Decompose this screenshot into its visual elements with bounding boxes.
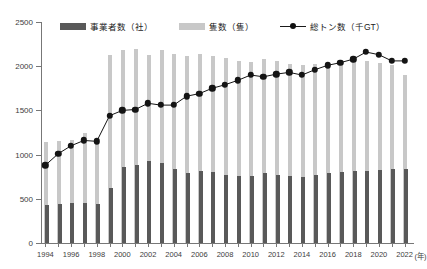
x-axis-tick [353, 243, 354, 247]
x-axis-tick [71, 243, 72, 247]
x-axis-tick [84, 243, 85, 247]
y-axis-tick-label: 500 [0, 194, 33, 203]
bar-operators [109, 188, 113, 243]
x-axis-tick [289, 243, 290, 247]
x-axis-tick [174, 243, 175, 247]
x-axis-tick [340, 243, 341, 247]
x-axis-tick-label: 2004 [165, 250, 182, 259]
x-axis-tick [212, 243, 213, 247]
bar-operators [340, 172, 344, 243]
bar-operators [58, 204, 62, 243]
bar-operators [288, 176, 292, 243]
x-axis-tick [276, 243, 277, 247]
bar-operators [404, 169, 408, 243]
y-axis-tick-label: 1500 [0, 106, 33, 115]
bar-operators [237, 176, 241, 243]
bar-operators [391, 169, 395, 243]
bar-operators [45, 205, 49, 243]
x-axis-tick-label: 2008 [217, 250, 234, 259]
x-axis-tick-label: 2000 [114, 250, 131, 259]
x-axis-tick [199, 243, 200, 247]
x-axis-tick [161, 243, 162, 247]
y-axis-tick-label: 2000 [0, 62, 33, 71]
x-axis-tick [58, 243, 59, 247]
x-axis-tick [302, 243, 303, 247]
bar-operators [122, 167, 126, 243]
bar-operators [96, 204, 100, 243]
x-axis-tick [392, 243, 393, 247]
bar-operators [263, 173, 267, 243]
x-axis-tick-label: 1996 [63, 250, 80, 259]
x-axis-tick [315, 243, 316, 247]
y-axis-tick-label: 1000 [0, 150, 33, 159]
x-axis-tick-label: 2020 [371, 250, 388, 259]
x-axis-tick [45, 243, 46, 247]
bar-operators [276, 175, 280, 244]
bar-operators [147, 161, 151, 243]
bar-operators [160, 163, 164, 243]
x-axis-unit-label: (年) [415, 250, 427, 261]
x-axis-tick [135, 243, 136, 247]
x-axis-tick [110, 243, 111, 247]
bar-operators [173, 169, 177, 243]
x-axis-tick [97, 243, 98, 247]
bar-operators [327, 173, 331, 243]
x-axis-tick-label: 1994 [37, 250, 54, 259]
x-axis-tick [328, 243, 329, 247]
bar-operators [211, 172, 215, 243]
x-axis-tick-label: 2002 [140, 250, 157, 259]
x-axis-tick-label: 2022 [396, 250, 413, 259]
bar-operators [314, 175, 318, 243]
bar-operators [83, 203, 87, 243]
x-axis-tick [148, 243, 149, 247]
bar-operators [365, 171, 369, 243]
bar-operators [199, 171, 203, 243]
y-axis-tick-label: 2500 [0, 18, 33, 27]
x-axis-tick [225, 243, 226, 247]
bar-operators [378, 170, 382, 243]
bar-operators [353, 171, 357, 243]
x-axis-tick-label: 2010 [242, 250, 259, 259]
x-axis-tick [366, 243, 367, 247]
bar-operators [186, 173, 190, 243]
bar-operators [250, 176, 254, 243]
x-axis-tick [263, 243, 264, 247]
x-axis-tick-label: 2016 [319, 250, 336, 259]
x-axis-tick [379, 243, 380, 247]
x-axis-tick [405, 243, 406, 247]
y-axis-tick-label: 0 [0, 239, 33, 248]
x-axis-tick [238, 243, 239, 247]
x-axis-tick-label: 2006 [191, 250, 208, 259]
x-axis-tick-label: 2012 [268, 250, 285, 259]
x-axis-tick-label: 2014 [294, 250, 311, 259]
x-axis-tick [187, 243, 188, 247]
x-axis-tick [251, 243, 252, 247]
plot-area [41, 22, 413, 243]
x-axis-tick-label: 1998 [88, 250, 105, 259]
x-axis-tick [122, 243, 123, 247]
bar-operators [70, 203, 74, 243]
bar-operators [301, 177, 305, 243]
bar-operators [135, 165, 139, 243]
bar-operators [224, 175, 228, 244]
x-axis-tick-label: 2018 [345, 250, 362, 259]
